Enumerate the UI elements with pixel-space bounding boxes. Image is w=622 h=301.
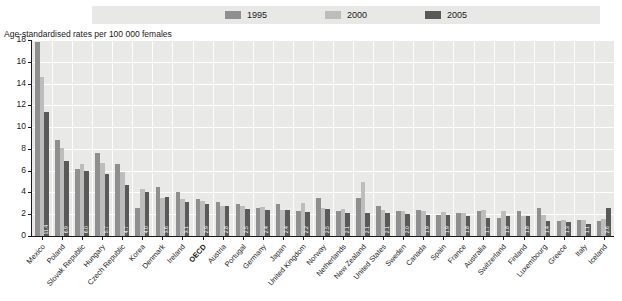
bar-value-label: 3.6	[164, 226, 169, 233]
x-axis-tick-mark	[363, 236, 364, 240]
bar-2005: 2.4	[285, 210, 290, 236]
bar-2005: 1.4	[546, 221, 551, 236]
y-axis-tick-mark	[28, 62, 31, 63]
bar-2005: 1.8	[526, 216, 531, 236]
x-axis-tick-mark	[283, 236, 284, 240]
legend-label-2000: 2000	[347, 11, 367, 20]
bar-value-label: 1.1	[586, 226, 591, 233]
bar-value-label: 2.5	[245, 226, 250, 233]
y-axis-tick-mark	[28, 127, 31, 128]
bar-group: 1.8	[493, 40, 513, 236]
bar-2005: 2.9	[205, 204, 210, 236]
y-axis-tick-mark	[28, 214, 31, 215]
x-axis-tick-mark	[503, 236, 504, 240]
legend-item-2005: 2005	[425, 11, 467, 20]
plot-area: 11.46.96.05.74.74.03.63.12.92.82.52.42.4…	[31, 40, 614, 237]
bar-value-label: 2.4	[265, 226, 270, 233]
y-axis-tick-label: 6	[0, 166, 26, 175]
x-axis-tick-mark	[263, 236, 264, 240]
bar-groups: 11.46.96.05.74.74.03.63.12.92.82.52.42.4…	[32, 40, 614, 236]
x-axis-category-austria: Austria	[212, 241, 232, 301]
bar-value-label: 2.9	[205, 226, 210, 233]
bar-value-label: 2.1	[385, 226, 390, 233]
x-axis-tick-mark	[564, 236, 565, 240]
bar-value-label: 1.8	[505, 226, 510, 233]
x-axis-tick-mark	[102, 236, 103, 240]
bar-2005: 2.6	[606, 208, 611, 236]
x-axis-tick-mark	[223, 236, 224, 240]
bar-2005: 2.2	[305, 212, 310, 236]
bar-group: 2.6	[594, 40, 614, 236]
y-axis-tick-mark	[28, 40, 31, 41]
bar-2005: 2.4	[265, 210, 270, 236]
x-axis-tick-mark	[423, 236, 424, 240]
bar-2005: 2.1	[345, 213, 350, 236]
bar-value-label: 1.8	[465, 226, 470, 233]
y-axis-tick-mark	[28, 236, 31, 237]
x-axis-tick-mark	[182, 236, 183, 240]
x-axis-category-france: France	[452, 241, 472, 301]
x-axis-category-slovak-republic: Slovak Republic	[71, 241, 91, 301]
bar-group: 2.1	[333, 40, 353, 236]
legend-swatch-2000	[325, 11, 341, 19]
bar-group: 2.2	[293, 40, 313, 236]
bar-value-label: 1.4	[546, 226, 551, 233]
x-axis-category-sweden: Sweden	[392, 241, 412, 301]
bar-2005: 1.1	[586, 224, 591, 236]
bar-group: 2.0	[393, 40, 413, 236]
bar-group: 2.4	[273, 40, 293, 236]
bar-group: 2.5	[313, 40, 333, 236]
bar-value-label: 11.4	[44, 225, 49, 235]
bar-group: 4.7	[112, 40, 132, 236]
bar-2005: 1.8	[506, 216, 511, 236]
x-axis-tick-mark	[82, 236, 83, 240]
legend-item-2000: 2000	[325, 11, 367, 20]
legend-swatch-2005	[425, 11, 441, 19]
x-axis-tick-mark	[604, 236, 605, 240]
bar-2005: 3.6	[165, 197, 170, 236]
bar-value-label: 1.9	[445, 226, 450, 233]
y-axis-tick-mark	[28, 84, 31, 85]
bar-2005: 1.9	[446, 215, 451, 236]
bar-value-label: 1.9	[425, 226, 430, 233]
category-label: Mexico	[25, 243, 46, 265]
x-axis-tick-mark	[524, 236, 525, 240]
x-axis-category-spain: Spain	[432, 241, 452, 301]
bar-group: 1.3	[554, 40, 574, 236]
x-axis-tick-mark	[162, 236, 163, 240]
bar-2005: 4.0	[145, 192, 150, 236]
legend-label-1995: 1995	[247, 11, 267, 20]
bar-2005: 1.3	[566, 222, 571, 236]
bar-group: 2.8	[213, 40, 233, 236]
x-axis-tick-mark	[122, 236, 123, 240]
bar-value-label: 2.5	[325, 226, 330, 233]
bar-value-label: 1.8	[526, 226, 531, 233]
x-axis-tick-mark	[303, 236, 304, 240]
x-axis-category-czech-republic: Czech Republic	[111, 241, 131, 301]
x-axis-tick-mark	[383, 236, 384, 240]
bar-2005: 3.1	[185, 202, 190, 236]
y-axis-tick-mark	[28, 105, 31, 106]
x-axis-category-oecd: OECD	[192, 241, 212, 301]
y-axis-tick-label: 18	[0, 35, 26, 44]
bar-value-label: 2.2	[305, 226, 310, 233]
legend-item-1995: 1995	[225, 11, 267, 20]
bar-value-label: 2.1	[365, 226, 370, 233]
x-axis-tick-mark	[343, 236, 344, 240]
bar-group: 2.4	[253, 40, 273, 236]
y-axis-tick-mark	[28, 192, 31, 193]
x-axis-category-korea: Korea	[131, 241, 151, 301]
bar-2005: 2.8	[225, 206, 230, 236]
bar-value-label: 4.0	[144, 226, 149, 233]
bar-group: 2.1	[353, 40, 373, 236]
x-axis-tick-mark	[544, 236, 545, 240]
bar-value-label: 1.7	[485, 226, 490, 233]
x-axis-category-labels: MexicoPolandSlovak RepublicHungaryCzech …	[31, 241, 613, 301]
x-axis-tick-mark	[323, 236, 324, 240]
bar-group: 1.8	[453, 40, 473, 236]
bar-value-label: 2.1	[345, 226, 350, 233]
x-axis-tick-mark	[403, 236, 404, 240]
bar-group: 4.0	[132, 40, 152, 236]
x-axis-category-iceland: Iceland	[593, 241, 613, 301]
bar-value-label: 2.0	[405, 226, 410, 233]
